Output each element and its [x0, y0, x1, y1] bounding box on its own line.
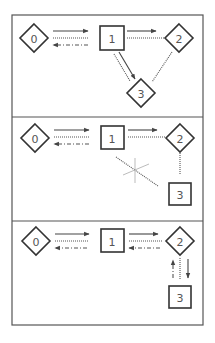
node-label: 2 [177, 133, 184, 146]
node-label: 0 [33, 236, 40, 249]
node-3: 3 [169, 183, 191, 205]
node-label: 1 [109, 133, 116, 146]
node-1: 1 [100, 26, 124, 50]
node-0: 0 [21, 124, 49, 152]
node-0: 0 [20, 24, 48, 52]
edge-2-3-dotted [152, 52, 172, 82]
node-3: 3 [127, 79, 155, 107]
panel-1: 0 1 2 3 [20, 24, 193, 107]
outer-frame [12, 15, 203, 325]
diagram-canvas: 0 1 2 3 0 [0, 0, 215, 343]
node-label: 3 [138, 88, 145, 101]
node-1: 1 [101, 126, 124, 149]
node-label: 2 [176, 33, 183, 46]
node-label: 1 [109, 236, 116, 249]
panel-3: 0 1 2 3 [22, 227, 194, 308]
node-2: 2 [166, 227, 194, 255]
panel-2: 0 1 2 3 [21, 124, 194, 205]
edge-1-3-removed [116, 157, 158, 186]
node-label: 3 [177, 292, 184, 305]
node-label: 0 [32, 133, 39, 146]
node-2: 2 [165, 24, 193, 52]
node-2: 2 [166, 124, 194, 152]
node-1: 1 [101, 229, 124, 252]
node-0: 0 [22, 227, 50, 255]
node-label: 0 [31, 33, 38, 46]
node-label: 1 [109, 33, 116, 46]
node-label: 2 [177, 236, 184, 249]
node-label: 3 [177, 189, 184, 202]
node-3: 3 [169, 286, 191, 308]
